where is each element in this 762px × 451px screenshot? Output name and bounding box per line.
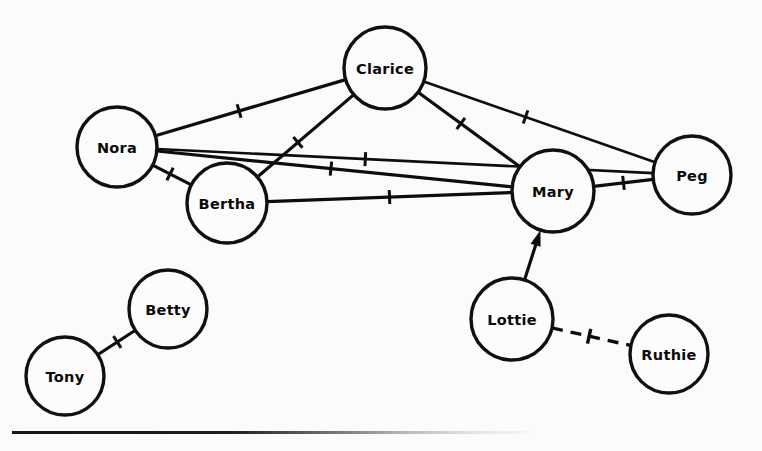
node-betty[interactable]: Betty	[129, 270, 207, 348]
node-label-bertha: Bertha	[199, 196, 256, 212]
tick-nora-clarice	[237, 104, 241, 117]
bottom-rule	[12, 431, 532, 434]
node-label-peg: Peg	[676, 168, 708, 184]
node-label-mary: Mary	[532, 184, 574, 200]
node-label-tony: Tony	[46, 369, 85, 385]
node-lottie[interactable]: Lottie	[471, 278, 553, 360]
node-peg[interactable]: Peg	[653, 136, 731, 214]
edge-lottie-mary	[525, 241, 537, 279]
tick-lottie-ruthie	[587, 329, 590, 344]
node-nora[interactable]: Nora	[77, 107, 157, 187]
node-label-nora: Nora	[97, 140, 137, 156]
node-bertha[interactable]: Bertha	[187, 163, 267, 243]
arrowhead-lottie-mary	[531, 230, 541, 247]
node-label-lottie: Lottie	[487, 312, 537, 328]
node-ruthie[interactable]: Ruthie	[630, 315, 708, 393]
node-tony[interactable]: Tony	[26, 337, 104, 415]
tick-nora-mary	[330, 162, 331, 176]
node-layer: ClariceNoraBerthaMaryPegBettyTonyLottieR…	[26, 27, 731, 415]
node-label-betty: Betty	[145, 302, 191, 318]
edge-clarice-mary	[418, 92, 520, 167]
node-label-clarice: Clarice	[356, 61, 414, 77]
tick-nora-peg	[365, 152, 366, 166]
node-clarice[interactable]: Clarice	[344, 27, 426, 109]
sociogram-canvas: ClariceNoraBerthaMaryPegBettyTonyLottieR…	[0, 0, 762, 451]
sociogram-figure: ClariceNoraBerthaMaryPegBettyTonyLottieR…	[0, 0, 762, 451]
tick-mary-peg	[623, 176, 625, 190]
node-mary[interactable]: Mary	[512, 150, 594, 232]
tick-bertha-mary	[389, 190, 390, 204]
node-label-ruthie: Ruthie	[641, 347, 696, 363]
